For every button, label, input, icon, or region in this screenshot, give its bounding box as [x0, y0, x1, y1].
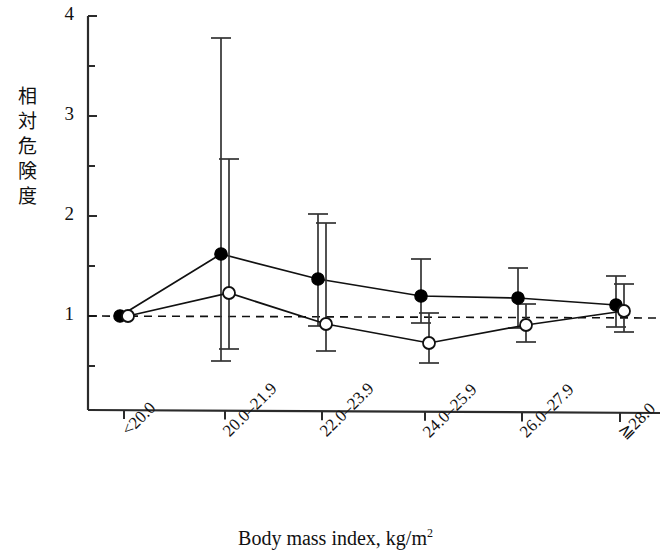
series-line-filled	[120, 254, 616, 316]
x-axis-title: Body mass index, kg/m2	[0, 526, 671, 550]
data-point-open	[618, 305, 630, 317]
data-point-open	[520, 319, 532, 331]
relative-risk-chart: 相 対 危 険 度 Body mass index, kg/m2 1234<20…	[0, 0, 671, 559]
y-tick-label: 4	[52, 3, 74, 25]
data-point-filled	[512, 292, 524, 304]
data-point-filled	[312, 273, 324, 285]
y-tick-label: 3	[52, 103, 74, 125]
data-point-open	[122, 310, 134, 322]
data-point-open	[223, 287, 235, 299]
data-point-open	[320, 318, 332, 330]
x-axis-title-superscript: 2	[427, 526, 433, 540]
y-tick-label: 1	[52, 303, 74, 325]
data-point-filled	[215, 248, 227, 260]
x-axis-title-text: Body mass index, kg/m	[238, 527, 427, 549]
y-tick-label: 2	[52, 203, 74, 225]
x-axis-line	[88, 410, 660, 413]
plot-area	[0, 0, 671, 559]
data-point-open	[423, 337, 435, 349]
data-point-filled	[415, 290, 427, 302]
